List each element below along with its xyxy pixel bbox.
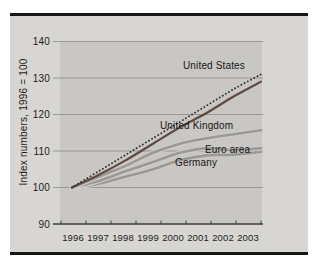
- series-label-germany: Germany: [175, 157, 217, 168]
- x-tick-label-2001: 2001: [187, 232, 209, 243]
- gdp-index-chart-figure: Index numbers, 1996 = 100 United States …: [0, 0, 319, 273]
- x-tick-label-1996: 1996: [62, 232, 84, 243]
- y-tick-label-120: 120: [18, 109, 50, 120]
- x-tick-label-2000: 2000: [162, 232, 184, 243]
- y-tick-label-100: 100: [18, 182, 50, 193]
- x-tick-label-2002: 2002: [212, 232, 234, 243]
- y-tick-label-110: 110: [18, 146, 50, 157]
- y-tick-label-90: 90: [18, 219, 50, 230]
- series-label-united-kingdom: United Kingdom: [160, 120, 233, 131]
- series-label-euro-area: Euro area: [205, 144, 250, 155]
- x-tick-label-2003: 2003: [237, 232, 259, 243]
- x-tick-label-1997: 1997: [87, 232, 109, 243]
- series-label-united-states: United States: [183, 60, 245, 71]
- x-tick-label-1998: 1998: [112, 232, 134, 243]
- x-tick-label-1999: 1999: [137, 232, 159, 243]
- y-tick-label-130: 130: [18, 73, 50, 84]
- y-tick-label-140: 140: [18, 36, 50, 47]
